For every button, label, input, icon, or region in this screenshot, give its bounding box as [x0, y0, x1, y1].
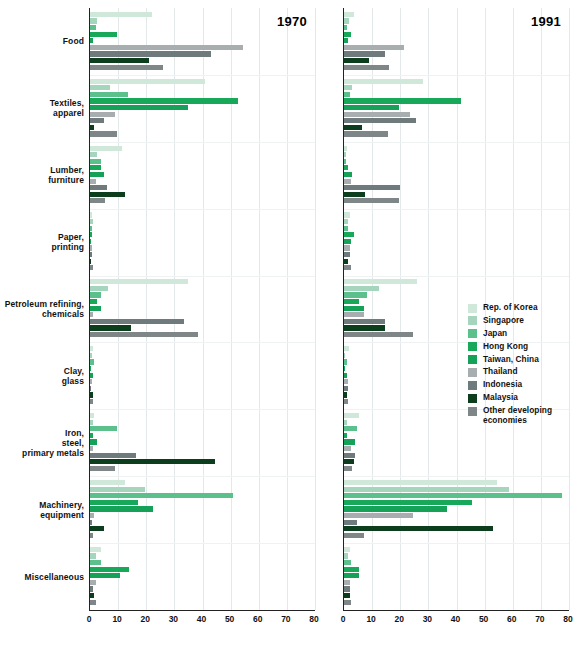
- legend-item[interactable]: Indonesia: [468, 380, 580, 390]
- bar: [344, 12, 354, 17]
- x-tick-40: 40: [451, 614, 460, 624]
- category-label-textiles-apparel: Textiles,apparel: [0, 98, 84, 118]
- bar: [90, 192, 125, 197]
- category-label-clay-glass: Clay,glass: [0, 366, 84, 386]
- legend-label: Taiwan, China: [483, 355, 539, 365]
- bar: [344, 265, 351, 270]
- legend-item[interactable]: Singapore: [468, 316, 580, 326]
- bar: [344, 172, 352, 177]
- legend-item[interactable]: Rep. of Korea: [468, 303, 580, 313]
- legend-item[interactable]: Hong Kong: [468, 342, 580, 352]
- bar: [90, 567, 129, 572]
- bar: [344, 547, 350, 552]
- bar-group: [90, 75, 315, 142]
- bar: [90, 520, 92, 525]
- x-tick-60: 60: [507, 614, 516, 624]
- bar: [344, 560, 351, 565]
- bar: [90, 399, 93, 404]
- bar: [344, 513, 413, 518]
- bar: [344, 98, 461, 103]
- x-tick-60: 60: [253, 614, 262, 624]
- category-label-food: Food: [0, 36, 84, 46]
- bar: [344, 232, 354, 237]
- bar: [90, 65, 163, 70]
- bar: [90, 179, 96, 184]
- bar: [90, 413, 94, 418]
- x-tick-50: 50: [479, 614, 488, 624]
- legend-item[interactable]: Other developingeconomies: [468, 406, 580, 425]
- bar: [90, 547, 101, 552]
- legend-label: Thailand: [483, 367, 518, 377]
- bar: [344, 226, 348, 231]
- legend-item[interactable]: Japan: [468, 329, 580, 339]
- bar-group: [90, 342, 315, 409]
- bar: [344, 45, 404, 50]
- bar: [90, 279, 188, 284]
- x-tick-20: 20: [141, 614, 150, 624]
- bar: [90, 373, 93, 378]
- bar: [90, 319, 184, 324]
- bar: [90, 92, 128, 97]
- x-tick-0: 0: [87, 614, 92, 624]
- bar-group: [344, 75, 569, 142]
- x-axis-ticks-1991: 01020304050607080: [343, 614, 568, 628]
- category-label-miscellaneous: Miscellaneous: [0, 572, 84, 582]
- legend-swatch-icon: [468, 342, 477, 351]
- bar: [344, 65, 389, 70]
- bar: [344, 292, 367, 297]
- panel-1970: 1970: [89, 8, 315, 611]
- bar: [90, 346, 93, 351]
- bar: [90, 219, 93, 224]
- bar: [344, 32, 351, 37]
- bar: [90, 480, 125, 485]
- bar: [344, 152, 346, 157]
- legend-label: Japan: [483, 329, 507, 339]
- legend-item[interactable]: Taiwan, China: [468, 355, 580, 365]
- bar-group: [344, 142, 569, 209]
- bar: [90, 392, 93, 397]
- bar: [90, 453, 136, 458]
- chart-root: FoodTextiles,apparelLumber,furniturePape…: [0, 0, 583, 668]
- bar: [344, 312, 364, 317]
- bar: [344, 165, 348, 170]
- bar: [90, 533, 93, 538]
- bar: [90, 45, 243, 50]
- category-label-petroleum-refining-chemicals: Petroleum refining,chemicals: [0, 299, 84, 319]
- bar: [344, 239, 351, 244]
- bar: [344, 319, 385, 324]
- bar: [90, 51, 211, 56]
- bar: [344, 198, 399, 203]
- bar: [344, 392, 347, 397]
- bar: [344, 146, 347, 151]
- bar: [344, 446, 351, 451]
- bar: [90, 466, 115, 471]
- legend-item[interactable]: Malaysia: [468, 393, 580, 403]
- bar: [344, 118, 416, 123]
- panel-1991-title: 1991: [531, 14, 561, 29]
- bar: [90, 366, 91, 371]
- bar: [344, 533, 364, 538]
- bar: [344, 553, 348, 558]
- bar: [344, 252, 350, 257]
- bar: [90, 18, 97, 23]
- category-label-machinery-equipment: Machinery,equipment: [0, 500, 84, 520]
- bar: [90, 573, 120, 578]
- bar: [344, 185, 400, 190]
- legend-item[interactable]: Thailand: [468, 367, 580, 377]
- bar: [344, 480, 497, 485]
- bar: [344, 487, 509, 492]
- x-tick-80: 80: [309, 614, 318, 624]
- x-tick-10: 10: [112, 614, 121, 624]
- x-tick-30: 30: [169, 614, 178, 624]
- bar: [90, 332, 198, 337]
- bar: [344, 520, 357, 525]
- bar: [344, 506, 447, 511]
- bar: [344, 51, 385, 56]
- bar-group: [344, 543, 569, 610]
- bar: [90, 459, 215, 464]
- bar: [90, 118, 104, 123]
- bar: [90, 212, 92, 217]
- legend-label: Rep. of Korea: [483, 303, 538, 313]
- bar: [90, 292, 101, 297]
- bar: [344, 79, 423, 84]
